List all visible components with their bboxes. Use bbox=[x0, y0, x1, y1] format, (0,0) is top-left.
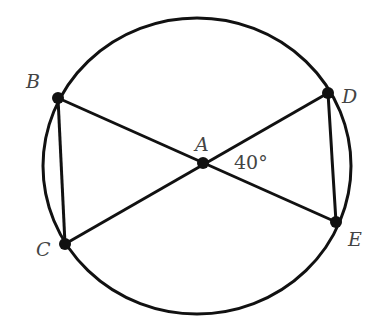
circle bbox=[43, 18, 351, 314]
label-B: B bbox=[25, 70, 40, 92]
point-D bbox=[322, 87, 334, 99]
point-E bbox=[330, 216, 342, 228]
point-C bbox=[59, 238, 71, 250]
segment-CD bbox=[65, 93, 328, 244]
label-A: A bbox=[193, 133, 209, 155]
segment-DE bbox=[328, 93, 336, 222]
geometry-diagram: A B C D E 40° bbox=[0, 0, 380, 332]
segment-BE bbox=[58, 98, 336, 222]
point-B bbox=[52, 92, 64, 104]
segment-BC bbox=[58, 98, 65, 244]
point-A bbox=[197, 157, 209, 169]
angle-label: 40° bbox=[234, 151, 268, 173]
label-E: E bbox=[347, 228, 362, 250]
label-D: D bbox=[341, 85, 357, 107]
label-C: C bbox=[36, 238, 51, 260]
